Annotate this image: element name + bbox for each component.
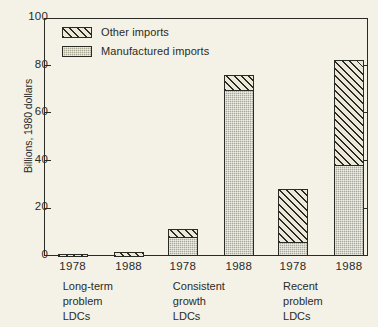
x-axis-group-label-line: growth	[173, 294, 293, 309]
bar-segment-other-imports	[334, 60, 364, 166]
x-tick-label-year: 1988	[209, 260, 269, 272]
bar-segment-manufactured-imports	[168, 237, 198, 256]
x-axis-group-label: ConsistentgrowthLDCs	[173, 279, 293, 324]
y-tick-label: 60	[0, 105, 48, 117]
bar-stack	[278, 189, 308, 256]
x-axis-group-label: Long-termproblemLDCs	[63, 279, 183, 324]
x-axis-group-label-line: LDCs	[63, 309, 183, 324]
legend-swatch-manufactured-imports	[62, 46, 92, 57]
x-axis-group-label-line: LDCs	[283, 309, 378, 324]
bar-segment-manufactured-imports	[334, 164, 364, 256]
x-tick-label-year: 1988	[319, 260, 378, 272]
bar-segment-other-imports	[58, 254, 88, 257]
bar-segment-other-imports	[278, 189, 308, 243]
x-axis-group-label-line: Recent	[283, 279, 378, 294]
x-axis-group-label-line: LDCs	[173, 309, 293, 324]
bar-segment-other-imports	[114, 252, 144, 256]
x-axis-group-label-line: Long-term	[63, 279, 183, 294]
x-tick-label-year: 1988	[99, 260, 159, 272]
y-tick-label: 0	[0, 248, 48, 260]
legend-swatch-other-imports	[62, 27, 92, 38]
legend-label-manufactured-imports: Manufactured imports	[101, 45, 209, 57]
bar-stack	[168, 229, 198, 256]
y-tick-label: 40	[0, 153, 48, 165]
x-axis-group-label-line: problem	[283, 294, 378, 309]
bar-stack	[114, 252, 144, 256]
bar-segment-manufactured-imports	[224, 89, 254, 256]
x-axis-group-label-line: Consistent	[173, 279, 293, 294]
bar-stack	[224, 75, 254, 256]
legend-label-other-imports: Other imports	[101, 26, 169, 38]
x-tick-label-year: 1978	[153, 260, 213, 272]
bar-segment-manufactured-imports	[278, 242, 308, 256]
bar-segment-other-imports	[168, 229, 198, 239]
x-axis-group-label-line: problem	[63, 294, 183, 309]
legend-item-manufactured-imports: Manufactured imports	[62, 43, 209, 59]
bar-stack	[58, 254, 88, 256]
x-tick-label-year: 1978	[263, 260, 323, 272]
legend-item-other-imports: Other imports	[62, 24, 209, 40]
y-tick-label: 100	[0, 10, 48, 22]
y-tick-label: 20	[0, 200, 48, 212]
bar-segment-other-imports	[224, 75, 254, 91]
x-axis-group-label: RecentproblemLDCs	[283, 279, 378, 324]
legend: Other imports Manufactured imports	[62, 24, 209, 62]
x-tick-label-year: 1978	[43, 260, 103, 272]
bar-stack	[334, 60, 364, 256]
bar-chart: Billions, 1980 dollars 020406080100 Othe…	[0, 0, 378, 327]
y-tick-label: 80	[0, 58, 48, 70]
